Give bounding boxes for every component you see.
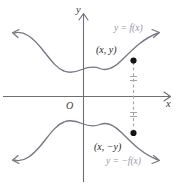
curve-label-lower: y = −f(x) (106, 157, 141, 167)
y-axis (79, 14, 88, 183)
point-label-lower: (x, −y) (94, 142, 121, 152)
point-label-upper: (x, y) (96, 45, 117, 55)
graph-canvas (0, 0, 179, 187)
curve-label-upper: y = f(x) (114, 24, 143, 34)
origin-label: O (66, 101, 73, 111)
y-axis-label: y (76, 5, 81, 16)
x-axis-label: x (166, 99, 171, 110)
function-reflection-figure: y x O (x, y) (x, −y) y = f(x) y = −f(x) (0, 0, 179, 187)
point-marker-upper (130, 57, 136, 63)
curve-upper (13, 30, 160, 73)
x-axis (3, 92, 171, 101)
point-marker-lower (130, 130, 136, 136)
